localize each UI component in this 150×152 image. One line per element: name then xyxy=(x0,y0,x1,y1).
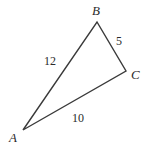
vertex-label-c: C xyxy=(131,68,140,81)
side-length-label-ab: 12 xyxy=(44,55,56,67)
vertex-label-b: B xyxy=(92,4,100,17)
vertex-label-a: A xyxy=(9,131,17,144)
side-length-label-ac: 10 xyxy=(72,112,84,124)
side-length-label-bc: 5 xyxy=(116,35,122,47)
triangle-figure: A B C 12 5 10 xyxy=(0,0,150,152)
triangle-outline xyxy=(0,0,150,152)
